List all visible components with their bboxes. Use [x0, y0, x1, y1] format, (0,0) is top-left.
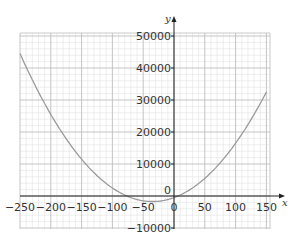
parabola-chart: −250−200−150−100−50050100150 −1000001000… — [0, 0, 303, 246]
y-tick-label: 50000 — [136, 30, 171, 43]
x-tick-label: 150 — [256, 201, 277, 214]
x-axis-label: x — [282, 197, 288, 208]
x-tick-labels: −250−200−150−100−50050100150 — [5, 201, 277, 214]
x-tick-label: −150 — [66, 201, 96, 214]
x-tick-label: 100 — [225, 201, 246, 214]
x-tick-label: −50 — [132, 201, 155, 214]
y-axis-arrow-icon — [172, 16, 177, 22]
y-tick-label: 10000 — [136, 158, 171, 171]
x-tick-label: −200 — [36, 201, 66, 214]
x-tick-label: 50 — [198, 201, 212, 214]
x-tick-label: −250 — [5, 201, 35, 214]
x-tick-label: −100 — [97, 201, 127, 214]
y-tick-label: 40000 — [136, 62, 171, 75]
y-tick-label: 0 — [164, 184, 171, 197]
y-tick-label: 20000 — [136, 126, 171, 139]
y-tick-label: −10000 — [127, 222, 171, 235]
axes — [20, 16, 285, 229]
x-tick-label: 0 — [171, 201, 178, 214]
y-tick-label: 30000 — [136, 94, 171, 107]
y-axis-label: y — [164, 13, 171, 24]
